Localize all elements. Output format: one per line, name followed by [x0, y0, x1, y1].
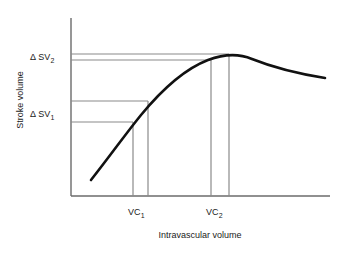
vc2-label: VC2 — [206, 208, 223, 217]
starling-curve — [91, 55, 325, 180]
vc1-subscript: 1 — [141, 212, 145, 219]
delta-sv1-text: Δ SV — [30, 109, 50, 119]
plot-area — [0, 0, 346, 254]
delta-sv2-label: Δ SV2 — [30, 53, 54, 62]
x-axis-label: Intravascular volume — [95, 230, 305, 240]
delta-sv2-text: Δ SV — [30, 52, 50, 62]
delta-sv2-subscript: 2 — [50, 57, 54, 64]
delta-sv1-label: Δ SV1 — [30, 110, 54, 119]
vc2-text: VC — [206, 207, 219, 217]
vc2-subscript: 2 — [219, 212, 223, 219]
vc1-label: VC1 — [128, 208, 145, 217]
delta-sv1-subscript: 1 — [50, 114, 54, 121]
vc1-text: VC — [128, 207, 141, 217]
frank-starling-curve-figure: Stroke volume Intravascular volume Δ SV2… — [0, 0, 346, 254]
y-axis-label: Stroke volume — [15, 60, 25, 140]
